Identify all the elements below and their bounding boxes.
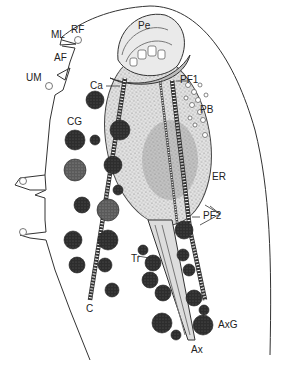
label-ax: Ax (191, 345, 203, 355)
label-tr: Tr (131, 254, 140, 264)
label-cg: CG (67, 117, 82, 127)
label-pf1: PF1 (180, 75, 198, 85)
label-axg: AxG (218, 320, 237, 330)
label-ml: ML (51, 30, 65, 40)
label-um: UM (26, 73, 42, 83)
label-ca: Ca (90, 81, 103, 91)
label-c: C (86, 304, 93, 314)
label-er: ER (212, 172, 226, 182)
label-rf: RF (71, 25, 84, 35)
label-pf2: PF2 (203, 211, 221, 221)
label-af: AF (54, 53, 67, 63)
label-pe: Pe (138, 21, 150, 31)
cell-diagram (0, 0, 289, 371)
label-pb: PB (200, 105, 213, 115)
